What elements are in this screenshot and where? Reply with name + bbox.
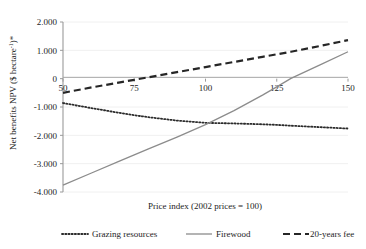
y-tick-label: -1.000 — [34, 102, 58, 112]
legend-label: Grazing resources — [92, 229, 158, 239]
x-axis-title-text: Price index (2002 prices = 100) — [148, 201, 262, 211]
y-tick-label: 1.000 — [37, 46, 58, 56]
legend-label: Firewood — [216, 229, 251, 239]
y-tick-label: -3.000 — [34, 159, 58, 169]
chart-background — [0, 0, 366, 249]
y-tick-label: 0 — [53, 74, 58, 84]
y-axis-title: Net benefits NPV ($ hectare-1)* — [8, 35, 18, 150]
line-chart: 2.0001.0000-1.000-2.000-3.000-4.000 5075… — [0, 0, 366, 249]
legend-label: 20-years fee — [310, 229, 354, 239]
y-tick-label: -2.000 — [34, 131, 58, 141]
y-axis-title-text: Net benefits NPV ($ hectare-1)* — [8, 35, 18, 150]
x-tick-label: 150 — [341, 83, 355, 93]
chart-figure: 2.0001.0000-1.000-2.000-3.000-4.000 5075… — [0, 0, 366, 249]
y-tick-label: -4.000 — [34, 187, 58, 197]
x-tick-label: 100 — [199, 83, 213, 93]
y-tick-label: 2.000 — [37, 17, 58, 27]
x-tick-label: 75 — [130, 83, 140, 93]
